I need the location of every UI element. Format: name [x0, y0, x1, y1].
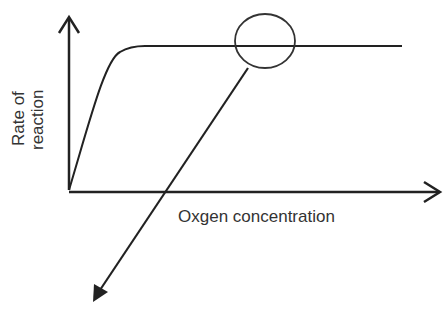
diagram-canvas: Rate of reaction Oxgen concentration	[0, 0, 446, 309]
highlight-circle	[235, 14, 295, 68]
pointer-arrowhead-icon	[93, 284, 108, 302]
pointer-arrow-line	[100, 68, 248, 290]
y-axis-label-line1: Rate of	[9, 91, 28, 146]
x-axis-label: Oxgen concentration	[178, 207, 335, 226]
y-axis-label-line2: reaction	[28, 90, 47, 150]
rate-curve	[69, 46, 402, 190]
